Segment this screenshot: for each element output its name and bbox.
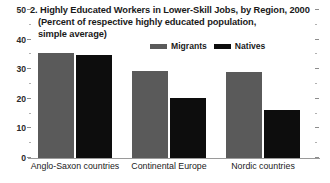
y-axis-tick-label-30: 30 bbox=[4, 65, 26, 74]
y-axis-minor-tick-left-15 bbox=[29, 113, 31, 114]
y-axis-minor-tick-right-25 bbox=[315, 83, 317, 84]
y-axis-tick-right-0 bbox=[315, 157, 319, 158]
y-axis-minor-tick-right-5 bbox=[315, 142, 317, 143]
x-axis-label-2: Continental Europe bbox=[131, 161, 206, 171]
y-axis-labels: 01020304050 bbox=[0, 10, 26, 158]
y-axis-tick-label-10: 10 bbox=[4, 124, 26, 133]
bar-group-2 bbox=[132, 10, 206, 158]
y-axis-tick-left-0 bbox=[27, 157, 31, 158]
y-axis-tick-left-40 bbox=[27, 39, 31, 40]
y-axis-tick-right-40 bbox=[315, 39, 319, 40]
y-axis-tick-left-10 bbox=[27, 127, 31, 128]
y-axis-tick-right-20 bbox=[315, 98, 319, 99]
y-axis-tick-right-30 bbox=[315, 68, 319, 69]
bar-natives-2[interactable] bbox=[170, 98, 206, 158]
y-axis-minor-tick-left-5 bbox=[29, 142, 31, 143]
bar-migrants-3[interactable] bbox=[226, 72, 262, 158]
bar-migrants-1[interactable] bbox=[38, 53, 74, 158]
y-axis-minor-tick-right-35 bbox=[315, 53, 317, 54]
x-axis-label-3: Nordic countries bbox=[231, 161, 295, 171]
y-axis-tick-left-30 bbox=[27, 68, 31, 69]
y-axis-tick-label-0: 0 bbox=[4, 154, 26, 163]
y-axis-minor-tick-left-45 bbox=[29, 24, 31, 25]
y-axis-tick-label-40: 40 bbox=[4, 35, 26, 44]
y-axis-tick-right-50 bbox=[315, 9, 319, 10]
y-axis-minor-tick-left-25 bbox=[29, 83, 31, 84]
x-axis-baseline bbox=[28, 158, 320, 159]
bar-natives-1[interactable] bbox=[76, 55, 112, 158]
y-axis-tick-label-50: 50 bbox=[4, 6, 26, 15]
x-axis-label-1: Anglo-Saxon countries bbox=[31, 161, 120, 171]
y-axis-minor-tick-right-15 bbox=[315, 113, 317, 114]
plot-area bbox=[32, 10, 314, 158]
bar-migrants-2[interactable] bbox=[132, 71, 168, 158]
y-axis-tick-left-50 bbox=[27, 9, 31, 10]
y-axis-minor-tick-right-45 bbox=[315, 24, 317, 25]
y-axis-tick-right-10 bbox=[315, 127, 319, 128]
y-axis-tick-label-20: 20 bbox=[4, 95, 26, 104]
chart-figure: 2. Highly Educated Workers in Lower-Skil… bbox=[0, 0, 330, 183]
bar-group-1 bbox=[38, 10, 112, 158]
bar-group-3 bbox=[226, 10, 300, 158]
x-axis-labels: Anglo-Saxon countriesContinental EuropeN… bbox=[28, 161, 324, 179]
bar-natives-3[interactable] bbox=[264, 110, 300, 158]
y-axis-tick-left-20 bbox=[27, 98, 31, 99]
y-axis-minor-tick-left-35 bbox=[29, 53, 31, 54]
